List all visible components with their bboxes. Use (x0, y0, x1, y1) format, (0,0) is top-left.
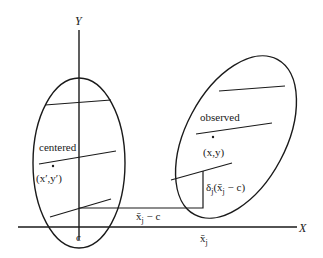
horizontal-gap-label: x̄j − c (136, 210, 160, 225)
x-axis-label: X (298, 221, 307, 235)
centered-segment-top (45, 100, 111, 105)
observed-point-marker (212, 136, 214, 138)
observed-point-label: (x,y) (203, 146, 224, 159)
xbar-j-tick-label: x̄j (200, 232, 208, 247)
centered-point-marker (52, 165, 54, 167)
observed-segment-bottom (171, 163, 232, 180)
centered-point-label: (x′,y′) (36, 172, 62, 185)
centered-label: centered (39, 141, 77, 153)
observed-segment-top (219, 86, 285, 91)
shift-diagram: Y X centered (x′,y′) observed (x,y) x̄j … (0, 0, 323, 258)
observed-segment-middle (196, 123, 272, 134)
origin-c-label: c (76, 231, 81, 243)
y-axis-label: Y (75, 14, 83, 28)
observed-label: observed (200, 111, 240, 123)
vertical-shift-label: δj(x̄j − c) (206, 181, 245, 196)
